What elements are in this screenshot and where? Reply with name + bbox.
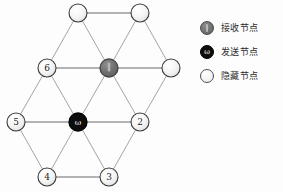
legend-item-receive-node: 接收节点 (200, 16, 283, 40)
graph-node-rx[interactable] (100, 59, 118, 77)
graph-node-tx[interactable]: ω (69, 113, 87, 131)
legend: 接收节点 ω 发送节点 隐藏节点 (200, 16, 283, 88)
node-circle (162, 59, 180, 77)
graph-node-n6[interactable]: 6 (38, 59, 56, 77)
white-circle-icon (200, 69, 214, 83)
graph-node-n5[interactable]: 5 (7, 113, 25, 131)
graph-node-n3[interactable]: 3 (100, 168, 118, 186)
graph-node-t1[interactable] (69, 4, 87, 22)
legend-item-send-node: ω 发送节点 (200, 40, 283, 64)
node-circle (131, 4, 149, 22)
graph-node-n4[interactable]: 4 (38, 168, 56, 186)
diagram-canvas: 65ω243 接收节点 ω 发送节点 隐藏节点 (0, 0, 283, 192)
node-label: 6 (44, 63, 50, 73)
node-label: 5 (13, 117, 19, 127)
legend-label-send-node: 发送节点 (221, 48, 259, 57)
legend-item-hidden-node: 隐藏节点 (200, 64, 283, 88)
gray-filled-circle-icon (200, 21, 214, 35)
node-label: ω (75, 118, 82, 127)
graph-node-r1[interactable] (162, 59, 180, 77)
black-filled-circle-icon: ω (200, 45, 214, 59)
node-label: 3 (106, 172, 112, 182)
node-label: 2 (137, 117, 143, 127)
node-highlight (108, 63, 110, 72)
edge-layer (16, 13, 171, 177)
legend-label-hidden-node: 隐藏节点 (221, 72, 259, 81)
node-circle (69, 4, 87, 22)
legend-label-receive-node: 接收节点 (221, 24, 259, 33)
graph-node-n2[interactable]: 2 (131, 113, 149, 131)
node-label: 4 (44, 172, 50, 182)
network-graph: 65ω243 (0, 0, 190, 192)
graph-node-t2[interactable] (131, 4, 149, 22)
